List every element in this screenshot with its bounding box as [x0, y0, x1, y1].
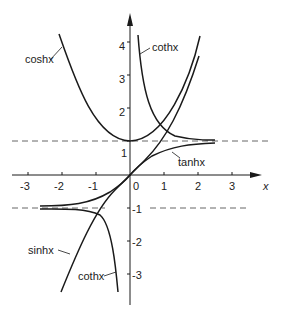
label-coth-negative: cothx: [78, 270, 105, 282]
label-coth-positive: cothx: [152, 41, 179, 53]
label-sinh: sinhx: [28, 244, 54, 256]
leader-tanh: [172, 152, 180, 158]
y-tick-label: 3: [119, 73, 125, 85]
x-tick-label: 1: [161, 180, 167, 192]
x-tick-label: 3: [229, 180, 235, 192]
leader-coth-negative: [104, 272, 116, 276]
label-tanh: tanhx: [178, 156, 205, 168]
y-tick-label: 1: [121, 147, 127, 159]
y-tick-label: -2: [132, 236, 142, 248]
y-tick-label: -1: [132, 203, 142, 215]
leader-sinh: [58, 250, 70, 254]
x-tick-label: 2: [195, 180, 201, 192]
leader-coth-positive: [140, 48, 150, 54]
hyperbolic-functions-diagram: -3 -2 -1 0 1 2 3 x 4 3 2 1 -1 -2 -3 cosh…: [0, 0, 283, 321]
y-axis-arrow-icon: [127, 13, 133, 26]
y-tick-label: -3: [132, 269, 142, 281]
x-axis-label: x: [262, 180, 269, 192]
x-axis-arrow-icon: [250, 172, 262, 178]
x-tick-label: -3: [20, 180, 30, 192]
y-tick-label: 4: [119, 40, 125, 52]
x-tick-label: -1: [88, 180, 98, 192]
y-tick-label: 2: [119, 106, 125, 118]
x-tick-label: -2: [54, 180, 64, 192]
plot-canvas: -3 -2 -1 0 1 2 3 x 4 3 2 1 -1 -2 -3 cosh…: [0, 0, 283, 321]
label-cosh: coshx: [25, 53, 54, 65]
x-tick-label: 0: [133, 180, 139, 192]
